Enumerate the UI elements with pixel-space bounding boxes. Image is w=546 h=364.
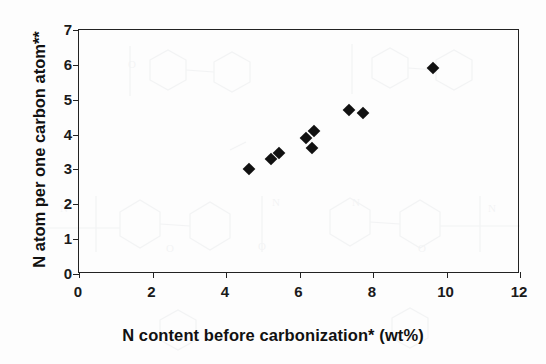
x-tick-label: 8 [352,283,392,300]
x-tick-label: 10 [426,283,466,300]
y-tick [73,239,79,240]
y-tick [73,65,79,66]
y-tick-label: 4 [46,125,72,142]
x-tick-label: 0 [58,283,98,300]
x-tick-label: 12 [499,283,539,300]
y-tick [73,204,79,205]
y-tick [73,135,79,136]
y-tick-label: 6 [46,55,72,72]
y-tick-label: 2 [46,195,72,212]
data-point [305,142,318,155]
x-tick [373,272,374,278]
y-tick-label: 5 [46,90,72,107]
x-tick [300,272,301,278]
y-tick-label: 3 [46,160,72,177]
y-tick-label: 7 [46,21,72,38]
data-point [242,163,255,176]
scatter-chart-figure: N N N N O O O O 01234567 024681012 N ato… [0,0,546,364]
x-axis-title: N content before carbonization* (wt%) [0,326,546,345]
x-tick [153,272,154,278]
y-tick-label: 1 [46,230,72,247]
x-tick [226,272,227,278]
x-axis-tick-labels: 024681012 [78,283,519,305]
x-tick [447,272,448,278]
y-tick [73,30,79,31]
data-point [342,104,355,117]
y-tick [73,100,79,101]
x-tick-label: 4 [205,283,245,300]
data-point [356,107,369,120]
x-tick [520,272,521,278]
x-tick-label: 2 [132,283,172,300]
data-point [426,62,439,75]
plot-area [78,29,519,273]
y-axis-title: N atom per one carbon atom** [30,10,49,290]
y-tick-label: 0 [46,265,72,282]
x-tick-label: 6 [279,283,319,300]
y-tick [73,169,79,170]
x-tick [79,272,80,278]
